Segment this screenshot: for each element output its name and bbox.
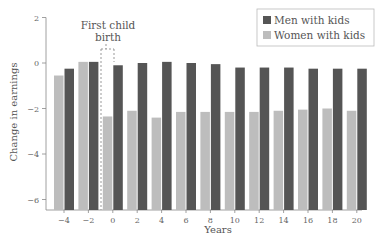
y-tick-label: 2 [34, 14, 39, 23]
legend-label-men: Men with kids [274, 14, 350, 26]
y-tick-label: −2 [27, 105, 39, 114]
bar-women [249, 112, 259, 210]
x-tick-label: 0 [110, 216, 115, 225]
bar-women [176, 112, 186, 210]
bar-men [211, 64, 221, 210]
bar-men [284, 68, 294, 210]
legend-swatch-men [263, 16, 271, 24]
bar-men [162, 62, 172, 210]
bar-men [260, 68, 270, 210]
x-tick-label: 16 [303, 216, 313, 225]
annotation-line1: First child [81, 19, 136, 31]
x-tick-label: 4 [159, 216, 164, 225]
bar-men [138, 63, 148, 210]
bar-women [127, 111, 137, 210]
bar-women [200, 112, 210, 210]
legend-label-women: Women with kids [274, 29, 365, 41]
x-tick-label: −2 [83, 216, 95, 225]
y-tick-label: −4 [27, 150, 39, 159]
x-tick-label: 18 [327, 216, 337, 225]
earnings-chart: 20−2−4−6−4−202468101214161820 First chil… [0, 0, 380, 249]
y-tick-label: −6 [27, 196, 39, 205]
x-tick-label: 2 [135, 216, 140, 225]
bar-men [333, 69, 343, 210]
x-tick-label: 6 [183, 216, 188, 225]
bar-men [187, 63, 197, 210]
bar-men [113, 65, 123, 210]
x-axis-title: Years [203, 224, 232, 235]
annotation-line2: birth [95, 31, 121, 43]
bar-women [347, 111, 357, 210]
legend: Men with kids Women with kids [257, 9, 374, 46]
bar-men [309, 69, 319, 210]
bars [54, 62, 367, 210]
bar-women [54, 76, 64, 210]
y-tick-label: 0 [34, 59, 39, 68]
bar-women [152, 118, 162, 210]
x-tick-label: −4 [58, 216, 70, 225]
bar-women [78, 62, 88, 210]
bar-men [65, 69, 75, 210]
x-tick-label: 14 [279, 216, 289, 225]
y-axis-title: Change in earnings [8, 62, 19, 161]
bar-women [225, 112, 235, 210]
bar-women [298, 110, 308, 210]
bar-women [322, 109, 332, 211]
x-tick-label: 20 [352, 216, 362, 225]
bar-women [274, 111, 284, 210]
bar-men [235, 68, 245, 210]
bar-women [103, 116, 113, 210]
bar-men [89, 62, 99, 210]
legend-swatch-women [263, 31, 271, 39]
x-tick-label: 12 [254, 216, 264, 225]
bar-men [357, 69, 367, 210]
